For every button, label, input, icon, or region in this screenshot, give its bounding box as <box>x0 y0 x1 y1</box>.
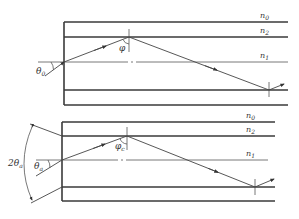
thetaa-arc <box>48 160 50 168</box>
n1-label: n1 <box>260 51 269 61</box>
reflected-ray <box>127 136 255 187</box>
top-panel: θ0 φ n0 n2 n1 <box>36 11 288 105</box>
ray-arrow <box>208 168 218 172</box>
n0-label: n0 <box>260 11 269 21</box>
theta0-arc <box>51 62 54 70</box>
reflected-ray <box>129 37 269 90</box>
bottom-panel: 2θa θa φc n0 n2 n1 <box>7 111 275 203</box>
phic-label: φc <box>115 141 125 152</box>
ray-arrow <box>94 46 106 51</box>
n0-label: n0 <box>246 111 255 121</box>
outgoing-ray <box>269 84 284 90</box>
phi-label: φ <box>119 43 126 53</box>
acceptance-cone-lower-ray <box>31 187 62 203</box>
thetaa-label: θa <box>34 161 43 172</box>
n1-label: n1 <box>246 149 255 159</box>
fiber-ray-diagram: θ0 φ n0 n2 n1 2θa θa φc n0 <box>0 0 299 219</box>
n2-label: n2 <box>260 26 269 36</box>
two-thetaa-label: 2θa <box>7 158 23 169</box>
ray-arrow <box>205 66 217 71</box>
acceptance-cone-upper-ray <box>30 124 62 136</box>
outgoing-ray <box>255 179 274 187</box>
full-acceptance-arc <box>24 127 32 200</box>
n2-label: n2 <box>246 125 255 135</box>
incident-ray <box>45 62 64 76</box>
theta0-label: θ0 <box>36 66 45 77</box>
ray-arrow <box>93 144 105 149</box>
